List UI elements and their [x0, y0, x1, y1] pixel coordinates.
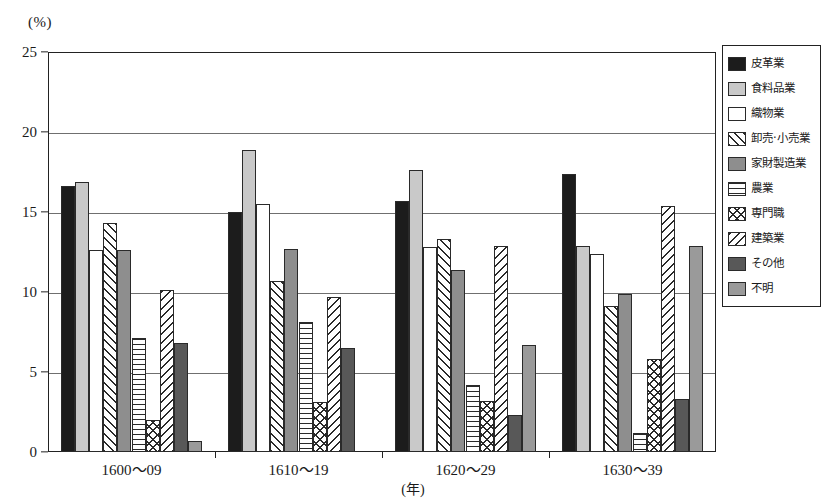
legend-label: 皮革業: [751, 58, 784, 70]
bar: [146, 420, 160, 452]
bar: [75, 182, 89, 452]
legend-swatch-icon: [728, 132, 746, 146]
bar: [341, 348, 355, 452]
legend-label: 食料品業: [751, 83, 795, 95]
bar: [689, 246, 703, 452]
bar: [327, 297, 341, 452]
legend-label: 不明: [751, 283, 773, 295]
legend-item: 不明: [728, 276, 816, 301]
legend-item: 織物業: [728, 101, 816, 126]
bar: [618, 294, 632, 452]
bar: [508, 415, 522, 452]
legend-label: 織物業: [751, 108, 784, 120]
bar: [160, 290, 174, 452]
bar: [562, 174, 576, 452]
bar: [647, 359, 661, 452]
bar: [661, 206, 675, 452]
legend-label: 農業: [751, 183, 773, 195]
legend-swatch-icon: [728, 282, 746, 296]
bar: [89, 250, 103, 452]
legend-item: その他: [728, 251, 816, 276]
legend-label: 家財製造業: [751, 158, 806, 170]
bar: [132, 338, 146, 452]
bar: [395, 201, 409, 452]
x-tick-mark: [549, 452, 550, 458]
bar: [313, 402, 327, 452]
bar: [242, 150, 256, 452]
bar: [466, 385, 480, 452]
bar: [270, 281, 284, 452]
bar: [675, 399, 689, 452]
bar: [61, 186, 75, 452]
x-tick-label: 1600〜09: [102, 458, 162, 479]
legend-swatch-icon: [728, 82, 746, 96]
bar-chart: (%) 0510152025 1600〜091610〜191620〜291630…: [0, 0, 826, 500]
legend-label: 専門職: [751, 208, 784, 220]
bar: [451, 270, 465, 452]
bar: [604, 306, 618, 452]
bar: [480, 401, 494, 452]
bar: [117, 250, 131, 452]
bar: [522, 345, 536, 452]
x-tick-label: 1610〜19: [269, 458, 329, 479]
legend-item: 食料品業: [728, 76, 816, 101]
bar: [409, 170, 423, 452]
bars-layer: [0, 0, 826, 500]
bar: [284, 249, 298, 452]
legend-swatch-icon: [728, 157, 746, 171]
bar: [590, 254, 604, 452]
legend-label: 建築業: [751, 233, 784, 245]
legend: 皮革業食料品業織物業卸売·小売業家財製造業農業専門職建築業その他不明: [722, 45, 821, 307]
bar: [103, 223, 117, 452]
x-tick-mark: [215, 452, 216, 458]
bar: [437, 239, 451, 452]
legend-label: 卸売·小売業: [751, 133, 810, 145]
legend-label: その他: [751, 258, 784, 270]
legend-swatch-icon: [728, 182, 746, 196]
bar: [228, 212, 242, 452]
bar: [299, 322, 313, 452]
bar: [174, 343, 188, 452]
bar: [494, 246, 508, 452]
legend-item: 農業: [728, 176, 816, 201]
legend-swatch-icon: [728, 232, 746, 246]
legend-swatch-icon: [728, 107, 746, 121]
legend-item: 家財製造業: [728, 151, 816, 176]
legend-item: 皮革業: [728, 51, 816, 76]
x-axis-title: (年): [0, 478, 826, 498]
legend-swatch-icon: [728, 257, 746, 271]
bar: [576, 246, 590, 452]
x-tick-label: 1620〜29: [436, 458, 496, 479]
legend-swatch-icon: [728, 57, 746, 71]
legend-swatch-icon: [728, 207, 746, 221]
bar: [256, 204, 270, 452]
x-tick-label: 1630〜39: [603, 458, 663, 479]
legend-item: 専門職: [728, 201, 816, 226]
bar: [633, 433, 647, 452]
bar: [188, 441, 202, 452]
legend-item: 建築業: [728, 226, 816, 251]
legend-item: 卸売·小売業: [728, 126, 816, 151]
x-tick-mark: [382, 452, 383, 458]
bar: [423, 247, 437, 452]
